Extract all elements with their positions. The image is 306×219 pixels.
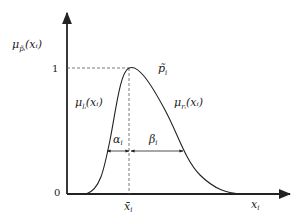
y-axis-label: μp̃ᵢ(xᵢ) <box>12 38 42 53</box>
alpha-label: αi <box>113 133 123 147</box>
peak-label: p̃i <box>158 62 167 77</box>
membership-curve <box>86 67 240 194</box>
origin-label: 0 <box>54 187 60 198</box>
y-tick-one: 1 <box>52 63 58 74</box>
right-branch-label: μrᵢ(xᵢ) <box>174 96 203 111</box>
beta-label: βi <box>148 133 158 147</box>
membership-function-diagram: μp̃ᵢ(xᵢ) 1 0 p̃i μlᵢ(xᵢ) μrᵢ(xᵢ) αi βi x… <box>0 0 306 219</box>
center-label: x̄i <box>124 200 132 214</box>
x-axis-label: xi <box>251 198 259 212</box>
left-branch-label: μlᵢ(xᵢ) <box>75 96 103 111</box>
